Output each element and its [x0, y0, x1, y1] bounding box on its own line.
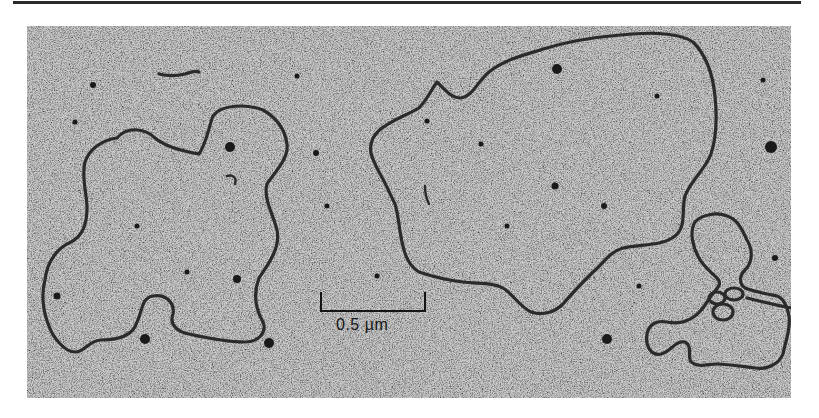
- scale-bar-left-tick: [320, 292, 322, 312]
- scale-bar-line: [320, 310, 426, 312]
- scale-bar-label: 0.5 µm: [336, 316, 388, 334]
- micrograph-canvas: [27, 26, 791, 398]
- scale-bar-right-tick: [424, 292, 426, 312]
- top-rule: [13, 1, 801, 4]
- scale-bar: [320, 290, 426, 312]
- micrograph-image: [27, 26, 791, 398]
